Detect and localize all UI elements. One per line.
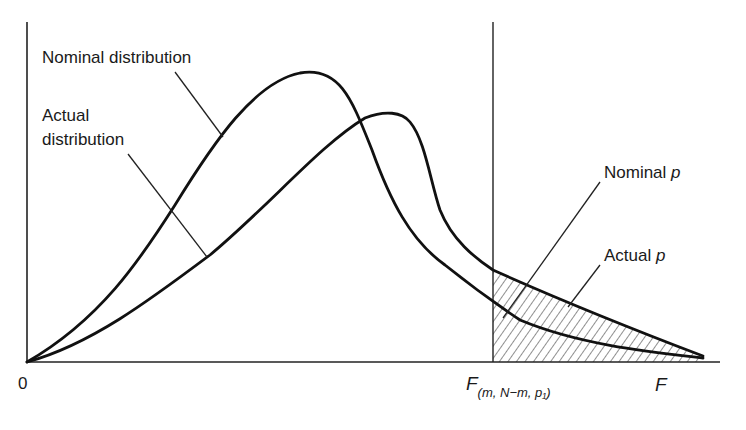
actual-p-label: Actual p	[604, 246, 665, 266]
leader-nominal-distribution	[175, 72, 223, 137]
leader-actual-p	[568, 265, 600, 307]
critical-f-subscript: (m, N−m, p₁)	[478, 385, 551, 400]
actual-p-text: Actual	[604, 246, 651, 265]
nominal-distribution-label: Nominal distribution	[42, 48, 191, 68]
actual-p-symbol: p	[656, 246, 665, 265]
x-axis-label: F	[655, 375, 667, 395]
critical-f-symbol: F	[466, 373, 478, 394]
actual-distribution-label-line1: Actual	[42, 106, 89, 126]
nominal-p-label: Nominal p	[604, 163, 681, 183]
origin-label: 0	[18, 374, 27, 394]
nominal-p-text: Nominal	[604, 163, 666, 182]
nominal-p-symbol: p	[671, 163, 680, 182]
actual-distribution-label-line2: distribution	[42, 130, 124, 150]
critical-f-label: F(m, N−m, p₁)	[466, 374, 551, 396]
leader-actual-distribution	[128, 154, 207, 257]
hatched-tail-region	[493, 260, 708, 364]
